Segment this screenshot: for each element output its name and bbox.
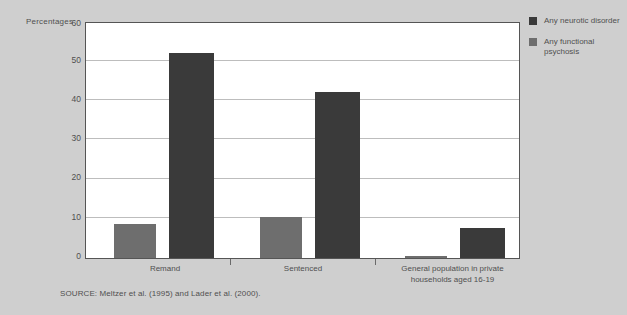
gridline-50	[86, 60, 519, 61]
x-label-sentenced: Sentenced	[258, 263, 348, 274]
legend-swatch-dark-icon	[529, 17, 537, 25]
source-note: SOURCE: Meltzer et al. (1995) and Lader …	[60, 289, 261, 298]
x-axis-tick-2	[375, 259, 376, 265]
y-tick-label-30: 30	[55, 133, 81, 143]
gridline-20	[86, 178, 519, 179]
y-tick-label-20: 20	[55, 172, 81, 182]
legend-label-neurotic-disorder: Any neurotic disorder	[544, 16, 620, 27]
x-label-remand: Remand	[120, 263, 210, 274]
x-label-general-population: General population in private households…	[385, 263, 520, 285]
y-tick-label-60: 60	[55, 18, 81, 28]
legend-item-neurotic-disorder: Any neurotic disorder	[529, 16, 623, 27]
y-tick-label-10: 10	[55, 212, 81, 222]
legend-label-functional-psychosis: Any functional psychosis	[544, 37, 623, 58]
y-tick-label-0: 0	[55, 251, 81, 261]
gridline-40	[86, 99, 519, 100]
plot-area	[85, 22, 520, 259]
y-tick-label-50: 50	[55, 55, 81, 65]
gridline-30	[86, 138, 519, 139]
x-axis-tick-1	[230, 259, 231, 265]
y-tick-label-40: 40	[55, 94, 81, 104]
legend-item-functional-psychosis: Any functional psychosis	[529, 37, 623, 58]
gridline-10	[86, 217, 519, 218]
chart-legend: Any neurotic disorder Any functional psy…	[529, 16, 623, 68]
legend-swatch-light-icon	[529, 38, 537, 46]
bar-chart-figure: Percentages 60 50 40 30 20 10 0 Remand S…	[0, 0, 627, 315]
